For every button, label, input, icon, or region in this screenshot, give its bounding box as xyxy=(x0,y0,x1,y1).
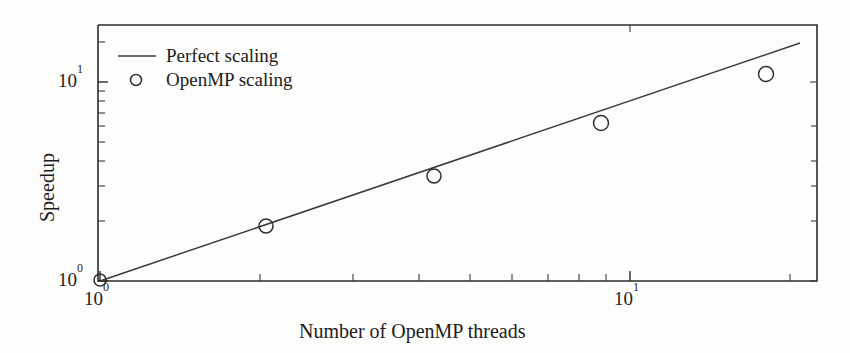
x-axis-tick-label-1: 100 xyxy=(84,287,109,310)
legend-label-openmp-scaling: OpenMP scaling xyxy=(166,69,292,91)
chart-canvas xyxy=(0,0,850,353)
x-axis-title: Number of OpenMP threads xyxy=(299,320,525,343)
y-axis-title: Speedup xyxy=(36,153,59,222)
y-axis-tick-label-10: 101 xyxy=(58,69,83,92)
figure-container: 100 101 100 101 Speedup Number of OpenMP… xyxy=(0,0,850,353)
legend-label-perfect-scaling: Perfect scaling xyxy=(166,45,278,67)
x-axis-tick-label-10: 101 xyxy=(614,287,639,310)
data-point-4-threads xyxy=(427,169,441,183)
y-axis-tick-label-1: 100 xyxy=(58,268,83,291)
legend-circle-sample xyxy=(131,75,142,86)
data-point-8-threads xyxy=(594,116,609,131)
data-point-16-threads xyxy=(759,67,774,82)
